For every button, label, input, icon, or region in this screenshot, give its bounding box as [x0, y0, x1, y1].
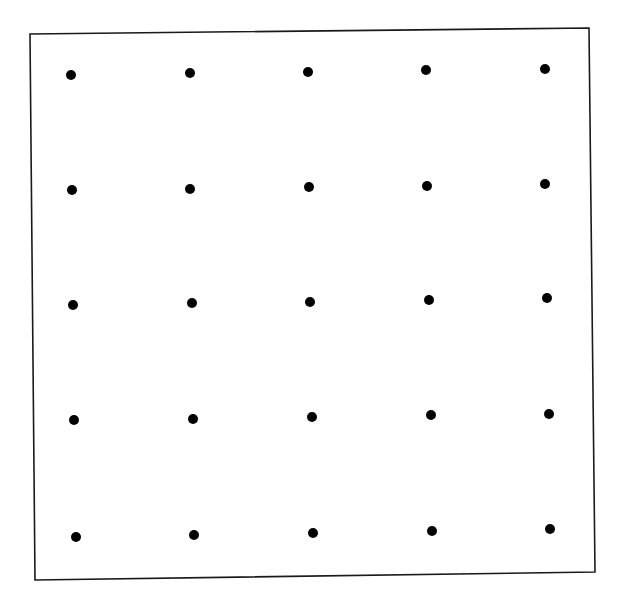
grid-dot-r2-c5	[540, 179, 550, 189]
grid-dot-r4-c4	[426, 410, 436, 420]
grid-dot-r2-c2	[185, 184, 195, 194]
grid-dot-r2-c3	[304, 182, 314, 192]
grid-dot-r1-c5	[540, 64, 550, 74]
grid-dot-r3-c5	[542, 293, 552, 303]
grid-dot-r5-c3	[308, 528, 318, 538]
grid-dot-r4-c5	[544, 409, 554, 419]
grid-dot-r3-c3	[305, 297, 315, 307]
grid-dot-r3-c1	[68, 300, 78, 310]
grid-dot-r4-c2	[188, 414, 198, 424]
dot-grid-diagram	[0, 0, 623, 613]
grid-dot-r4-c3	[307, 412, 317, 422]
grid-dot-r2-c1	[67, 185, 77, 195]
grid-dot-r3-c2	[187, 298, 197, 308]
grid-dot-r1-c2	[185, 68, 195, 78]
grid-dot-r2-c4	[422, 181, 432, 191]
grid-dot-r1-c4	[421, 65, 431, 75]
grid-dot-r5-c4	[427, 526, 437, 536]
grid-dot-r4-c1	[69, 415, 79, 425]
dot-grid	[66, 64, 555, 542]
grid-dot-r5-c2	[189, 530, 199, 540]
grid-dot-r3-c4	[424, 295, 434, 305]
grid-dot-r5-c5	[545, 524, 555, 534]
grid-dot-r1-c3	[303, 67, 313, 77]
grid-dot-r5-c1	[71, 532, 81, 542]
grid-dot-r1-c1	[66, 70, 76, 80]
